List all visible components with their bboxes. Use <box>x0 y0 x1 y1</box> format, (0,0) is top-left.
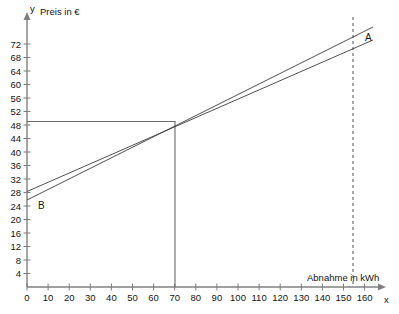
x-tick-label-10: 10 <box>43 292 54 303</box>
x-tick-label-160: 160 <box>357 292 373 303</box>
line-chart-svg: 4 8 12 16 20 24 28 32 36 40 44 48 52 56 … <box>0 0 399 314</box>
x-tick-label-40: 40 <box>106 292 117 303</box>
y-tick-label-12: 12 <box>10 241 21 252</box>
series-label-a: A <box>365 32 372 43</box>
x-tick-label-90: 90 <box>212 292 223 303</box>
x-tick-label-100: 100 <box>230 292 246 303</box>
y-tick-label-44: 44 <box>10 133 21 144</box>
y-tick-label-4: 4 <box>16 268 21 279</box>
x-axis-arrowhead <box>378 284 386 291</box>
x-axis <box>27 284 386 291</box>
x-axis-title: Abnahme in kWh <box>307 272 379 283</box>
y-tick-label-16: 16 <box>10 228 21 239</box>
y-tick-label-72: 72 <box>10 39 21 50</box>
x-tick-label-150: 150 <box>336 292 352 303</box>
y-tick-label-52: 52 <box>10 106 21 117</box>
y-tick-label-68: 68 <box>10 52 21 63</box>
x-tick-label-20: 20 <box>64 292 75 303</box>
chart-canvas: 4 8 12 16 20 24 28 32 36 40 44 48 52 56 … <box>0 0 399 314</box>
y-tick-label-8: 8 <box>16 255 21 266</box>
series-label-b: B <box>38 200 45 211</box>
x-tick-label-80: 80 <box>191 292 202 303</box>
y-tick-labels: 4 8 12 16 20 24 28 32 36 40 44 48 52 56 … <box>10 39 21 280</box>
y-tick-label-28: 28 <box>10 187 21 198</box>
x-tick-label-0: 0 <box>24 292 29 303</box>
x-tick-label-130: 130 <box>293 292 309 303</box>
y-tick-label-40: 40 <box>10 147 21 158</box>
x-tick-label-30: 30 <box>85 292 96 303</box>
x-tick-label-120: 120 <box>272 292 288 303</box>
x-tick-label-70: 70 <box>169 292 180 303</box>
x-tick-label-50: 50 <box>127 292 138 303</box>
y-axis-title: Preis in € <box>40 6 80 17</box>
x-tick-label-110: 110 <box>252 292 267 303</box>
y-tick-label-24: 24 <box>10 201 21 212</box>
y-tick-label-64: 64 <box>10 66 21 77</box>
series-line-a <box>27 27 373 200</box>
x-tick-labels: 0 10 20 30 40 50 60 70 80 90 100 110 120… <box>24 292 372 303</box>
y-tick-label-56: 56 <box>10 93 21 104</box>
y-tick-label-20: 20 <box>10 214 21 225</box>
y-tick-label-60: 60 <box>10 79 21 90</box>
y-axis-variable-label: y <box>30 3 35 14</box>
x-tick-label-140: 140 <box>314 292 330 303</box>
y-tick-label-32: 32 <box>10 174 21 185</box>
y-tick-label-48: 48 <box>10 120 21 131</box>
x-axis-variable-label: x <box>384 294 389 305</box>
y-tick-label-36: 36 <box>10 160 21 171</box>
series-line-b <box>27 40 373 192</box>
x-tick-label-60: 60 <box>148 292 159 303</box>
y-axis <box>24 12 31 287</box>
